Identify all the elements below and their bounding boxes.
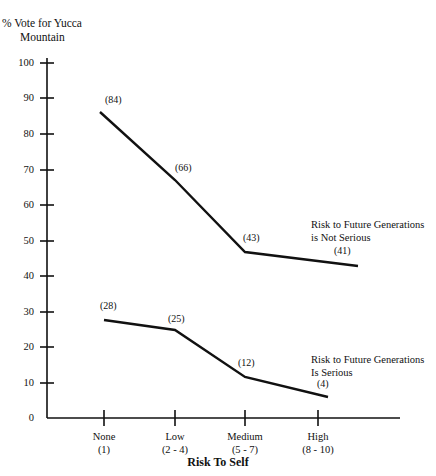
x-tick-label-high-range: (8 - 10) [302,444,334,455]
x-tick-label-low-range: (2 - 4) [162,444,188,455]
y-tick-label-80: 80 [8,129,34,139]
point-label-serious-low: (25) [168,313,185,324]
y-tick-label-20: 20 [8,342,34,352]
x-tick-label-high-name: High [308,431,329,442]
point-label-not-serious-none: (84) [105,94,122,105]
y-tick-label-40: 40 [8,271,34,281]
series-line-serious [104,320,328,397]
y-tick-label-10: 10 [8,378,34,388]
x-tick-label-low-name: Low [165,431,184,442]
point-label-serious-none: (28) [100,300,117,311]
y-tick-label-0: 0 [8,413,34,423]
y-tick-label-60: 60 [8,200,34,210]
y-tick-label-50: 50 [8,236,34,246]
point-label-not-serious-high: (41) [334,245,351,256]
x-tick-label-high: High (8 - 10) [275,430,361,456]
series-annotation-not-serious-line1: Risk to Future Generations [311,219,424,230]
series-annotation-serious-line2: Is Serious [311,367,353,378]
chart-figure: % Vote for Yucca Mountain [0,0,436,476]
series-annotation-serious-line1: Risk to Future Generations [311,354,424,365]
x-tick-label-none-name: None [93,431,116,442]
y-tick-label-30: 30 [8,307,34,317]
point-label-serious-high: (4) [317,378,329,389]
y-tick-label-90: 90 [8,93,34,103]
point-label-serious-medium: (12) [238,357,255,368]
point-label-not-serious-medium: (43) [243,232,260,243]
x-tick-label-none-range: (1) [98,444,110,455]
series-annotation-not-serious-line2: is Not Serious [311,232,371,243]
series-annotation-serious: Risk to Future Generations Is Serious [311,353,424,379]
point-label-not-serious-low: (66) [175,162,192,173]
y-tick-label-70: 70 [8,165,34,175]
series-annotation-not-serious: Risk to Future Generations is Not Seriou… [311,218,424,244]
x-tick-label-medium-range: (5 - 7) [232,444,258,455]
y-tick-label-100: 100 [8,58,34,68]
x-axis-title: Risk To Self [138,455,298,470]
x-tick-label-medium-name: Medium [227,431,263,442]
